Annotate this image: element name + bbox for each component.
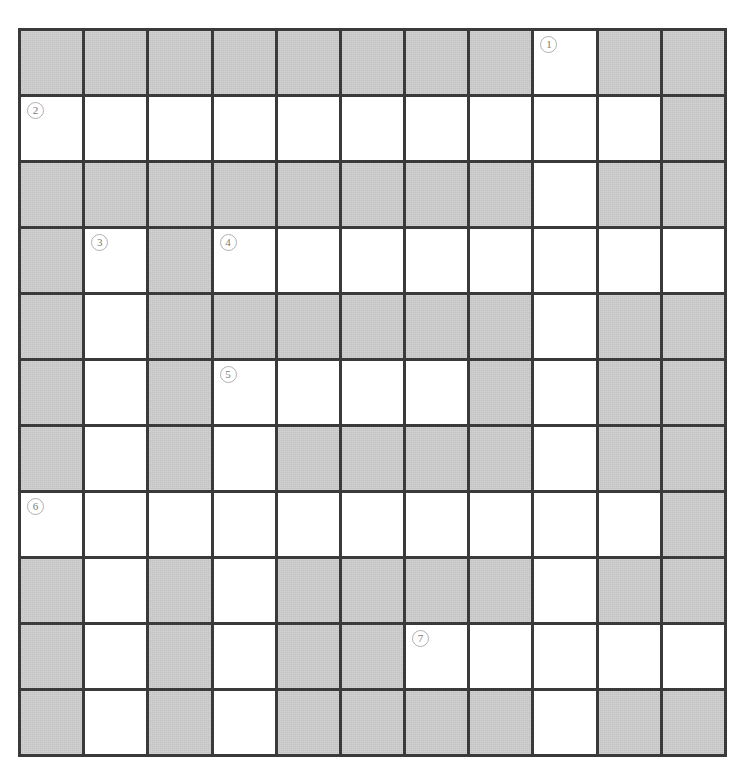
grid-cell-shaded	[278, 31, 339, 94]
grid-cell-shaded	[406, 295, 467, 358]
grid-cell-open[interactable]: 4	[214, 229, 275, 292]
grid-cell-open[interactable]	[406, 493, 467, 556]
grid-cell-open[interactable]	[342, 361, 403, 424]
grid-cell-open[interactable]: 6	[21, 493, 82, 556]
grid-cell-open[interactable]	[85, 625, 146, 688]
grid-cell-shaded	[149, 361, 210, 424]
grid-cell-shaded	[406, 163, 467, 226]
grid-cell-open[interactable]	[534, 97, 595, 160]
grid-cell-open[interactable]	[534, 361, 595, 424]
grid-cell-open[interactable]	[149, 97, 210, 160]
grid-cell-open[interactable]	[534, 295, 595, 358]
clue-number-badge: 3	[91, 234, 108, 251]
grid-cell-shaded	[663, 31, 724, 94]
grid-cell-open[interactable]	[534, 625, 595, 688]
grid-cell-open[interactable]	[599, 229, 660, 292]
grid-cell-shaded	[21, 691, 82, 754]
grid-cell-shaded	[599, 295, 660, 358]
grid-cell-shaded	[21, 229, 82, 292]
grid-cell-shaded	[406, 691, 467, 754]
grid-cell-shaded	[149, 31, 210, 94]
grid-cell-open[interactable]	[214, 559, 275, 622]
grid-cell-open[interactable]	[278, 97, 339, 160]
grid-cell-open[interactable]	[470, 97, 531, 160]
grid-cell-open[interactable]	[534, 691, 595, 754]
grid-cell-open[interactable]	[470, 625, 531, 688]
grid-cell-open[interactable]	[470, 229, 531, 292]
grid-cell-open[interactable]	[342, 229, 403, 292]
grid-cell-open[interactable]: 7	[406, 625, 467, 688]
grid-cell-shaded	[342, 559, 403, 622]
grid-cell-shaded	[21, 559, 82, 622]
grid-cell-shaded	[470, 559, 531, 622]
grid-cell-open[interactable]	[470, 493, 531, 556]
grid-cell-open[interactable]	[534, 229, 595, 292]
grid-cell-open[interactable]	[599, 493, 660, 556]
grid-cell-open[interactable]	[663, 625, 724, 688]
grid-cell-open[interactable]	[278, 361, 339, 424]
grid-cell-open[interactable]	[85, 427, 146, 490]
grid-cell-shaded	[21, 295, 82, 358]
grid-cell-shaded	[470, 361, 531, 424]
grid-cell-shaded	[470, 427, 531, 490]
grid-cell-open[interactable]	[663, 229, 724, 292]
grid-cell-open[interactable]	[214, 427, 275, 490]
grid-cell-open[interactable]	[85, 559, 146, 622]
grid-cell-shaded	[342, 163, 403, 226]
grid-cell-open[interactable]	[599, 97, 660, 160]
grid-cell-open[interactable]	[214, 493, 275, 556]
grid-cell-shaded	[470, 31, 531, 94]
grid-cell-open[interactable]	[534, 427, 595, 490]
grid-cell-open[interactable]	[85, 361, 146, 424]
grid-cell-open[interactable]	[85, 97, 146, 160]
grid-cell-open[interactable]	[85, 691, 146, 754]
grid-cell-shaded	[599, 361, 660, 424]
grid-cell-shaded	[342, 31, 403, 94]
grid-cell-shaded	[278, 163, 339, 226]
grid-cell-open[interactable]	[534, 559, 595, 622]
grid-cell-open[interactable]	[534, 493, 595, 556]
grid-cell-open[interactable]	[149, 493, 210, 556]
grid-cell-shaded	[149, 427, 210, 490]
grid-cell-shaded	[149, 691, 210, 754]
grid-cell-open[interactable]: 1	[534, 31, 595, 94]
clue-number-badge: 5	[220, 366, 237, 383]
grid-cell-open[interactable]	[214, 97, 275, 160]
clue-number-badge: 1	[540, 36, 557, 53]
grid-cell-shaded	[599, 427, 660, 490]
grid-cell-open[interactable]	[534, 163, 595, 226]
grid-cell-open[interactable]	[85, 295, 146, 358]
grid-cell-shaded	[149, 295, 210, 358]
grid-cell-open[interactable]: 2	[21, 97, 82, 160]
grid-cell-shaded	[278, 625, 339, 688]
grid-cell-open[interactable]	[85, 493, 146, 556]
grid-cell-shaded	[214, 163, 275, 226]
grid-cell-shaded	[342, 691, 403, 754]
grid-cell-open[interactable]	[278, 229, 339, 292]
grid-cell-shaded	[21, 361, 82, 424]
grid-cell-open[interactable]	[342, 97, 403, 160]
grid-cell-shaded	[85, 31, 146, 94]
grid-cell-open[interactable]: 3	[85, 229, 146, 292]
grid-cell-open[interactable]: 5	[214, 361, 275, 424]
crossword-puzzle-page: 1234567	[0, 0, 745, 777]
grid-cell-open[interactable]	[214, 691, 275, 754]
grid-cell-shaded	[663, 361, 724, 424]
grid-cell-shaded	[599, 559, 660, 622]
grid-cell-open[interactable]	[406, 97, 467, 160]
grid-cell-open[interactable]	[214, 625, 275, 688]
grid-cell-shaded	[21, 625, 82, 688]
grid-cell-open[interactable]	[599, 625, 660, 688]
grid-cell-open[interactable]	[406, 361, 467, 424]
grid-cell-shaded	[278, 691, 339, 754]
grid-cell-open[interactable]	[278, 493, 339, 556]
grid-cell-open[interactable]	[342, 493, 403, 556]
grid-cell-shaded	[663, 295, 724, 358]
grid-cell-shaded	[278, 559, 339, 622]
grid-cell-shaded	[342, 427, 403, 490]
grid-cell-shaded	[470, 163, 531, 226]
grid-cell-shaded	[406, 559, 467, 622]
grid-cell-shaded	[599, 163, 660, 226]
grid-cell-open[interactable]	[406, 229, 467, 292]
grid-cell-shaded	[663, 559, 724, 622]
